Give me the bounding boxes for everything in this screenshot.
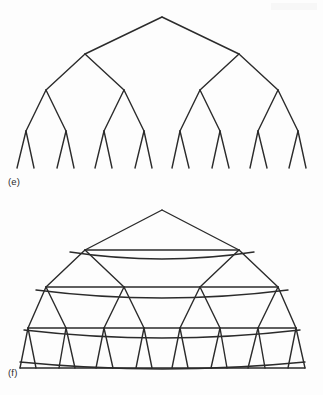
tree-edges-level-3 [17, 131, 306, 168]
figure-f-label: (f) [8, 367, 18, 378]
figure-f-drawing [0, 196, 323, 395]
figure-e [0, 0, 323, 196]
fig-f-tree-edges-level-1 [46, 250, 278, 287]
figure-f [0, 196, 323, 395]
figure-e-label: (e) [8, 176, 20, 187]
tree-edges-level-2 [26, 90, 298, 131]
fig-f-tree-edges-level-0 [85, 210, 239, 250]
tree-edges-level-0 [85, 17, 239, 54]
tree-edges-level-1 [46, 54, 278, 90]
figure-e-drawing [0, 0, 323, 196]
